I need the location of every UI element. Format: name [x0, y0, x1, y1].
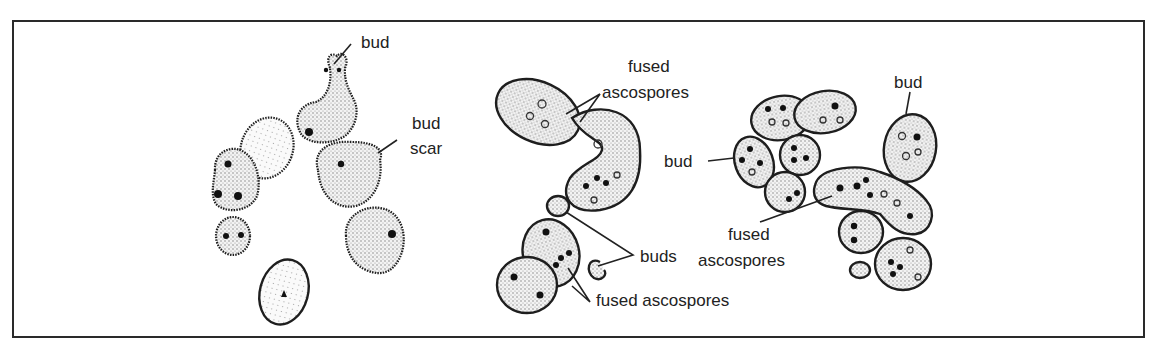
svg-text:buds: buds [640, 247, 677, 266]
label-fused-ascospores-right: fused ascospores [698, 196, 832, 270]
middle-panel-cells [485, 66, 640, 313]
left-panel-cells [213, 54, 404, 330]
yeast-diagram: bud bud scar fused ascospores buds fused… [0, 0, 1154, 348]
label-buds: buds [566, 212, 677, 266]
cell [213, 149, 259, 210]
label-bud-right-top: bud [894, 73, 922, 114]
cell [216, 217, 250, 255]
label-bud-right-left: bud [664, 152, 734, 171]
svg-text:fused ascospores: fused ascospores [596, 291, 729, 310]
svg-text:fused: fused [728, 225, 770, 244]
svg-text:scar: scar [410, 139, 442, 158]
svg-text:ascospores: ascospores [602, 83, 689, 102]
budding-cell [297, 54, 356, 142]
svg-text:bud: bud [361, 33, 389, 52]
svg-text:fused: fused [628, 57, 670, 76]
svg-text:bud: bud [412, 114, 440, 133]
cell [346, 208, 404, 274]
svg-text:bud: bud [664, 152, 692, 171]
svg-text:bud: bud [894, 73, 922, 92]
cell-with-bud-scar [317, 142, 381, 207]
svg-text:ascospores: ascospores [698, 251, 785, 270]
label-bud-scar: bud scar [378, 114, 442, 158]
